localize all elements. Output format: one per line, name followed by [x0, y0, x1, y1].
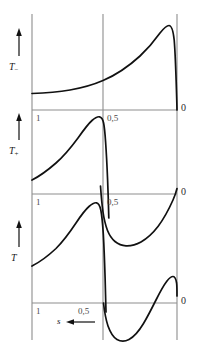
tick-label-middle-one: 1 — [36, 198, 41, 207]
figure-canvas — [0, 0, 201, 360]
arrow-icon-panel-middle — [16, 113, 22, 140]
curve-t-branch-right — [101, 186, 178, 246]
tick-label-top-zero: 0 — [181, 103, 186, 113]
tick-label-top-half: 0,5 — [107, 114, 118, 123]
curve-panel-bottom — [32, 186, 177, 341]
axis-label-panel-middle-subscript: + — [15, 150, 19, 158]
arrow-icon-panel-top — [16, 28, 22, 56]
y-axis-arrows — [16, 28, 22, 247]
axis-label-panel-bottom-letter: T — [11, 252, 17, 263]
tick-label-bottom-half: 0,5 — [78, 307, 89, 316]
curve-panel-top — [32, 26, 177, 111]
tick-label-middle-zero: 0 — [181, 187, 186, 197]
s-direction-arrow-icon — [66, 319, 95, 325]
tick-label-bottom-one: 1 — [36, 307, 41, 316]
tick-label-bottom-zero: 0 — [181, 296, 186, 306]
axis-label-panel-top: T− — [9, 62, 19, 74]
tick-label-top-one: 1 — [36, 114, 41, 123]
tick-label-middle-half: 0,5 — [107, 198, 118, 207]
axis-label-panel-bottom: T — [11, 253, 17, 263]
axis-label-panel-top-subscript: − — [15, 66, 19, 74]
curve-t-branch-lower — [104, 276, 178, 341]
x-axis-variable-label: s — [57, 317, 61, 326]
curve-t-branch-left — [32, 203, 106, 312]
grid-lines — [32, 14, 177, 340]
temperature-profile-figure: T− T+ T 1 0,5 0 1 0,5 0 1 0,5 0 s — [0, 0, 201, 360]
arrow-icon-panel-bottom — [16, 220, 22, 247]
axis-label-panel-middle: T+ — [9, 146, 19, 158]
curve-t-minus — [32, 26, 177, 111]
